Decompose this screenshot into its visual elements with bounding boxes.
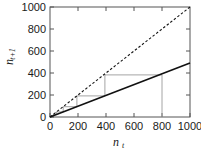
y-axis-title: n t+1 bbox=[2, 48, 17, 65]
x-tick-label: 200 bbox=[69, 120, 87, 132]
y-axis-ticks-right bbox=[186, 29, 190, 95]
cobweb-plot: 0 200 400 600 800 1000 0 200 400 600 800… bbox=[0, 0, 201, 149]
y-tick-label: 0 bbox=[40, 111, 46, 123]
x-tick-label: 600 bbox=[125, 120, 143, 132]
x-axis-title: n t bbox=[113, 135, 125, 149]
y-tick-label: 200 bbox=[28, 89, 46, 101]
identity-line bbox=[50, 7, 190, 117]
chart-figure: 0 200 400 600 800 1000 0 200 400 600 800… bbox=[0, 0, 201, 149]
x-tick-label: 800 bbox=[153, 120, 171, 132]
x-axis-ticks bbox=[50, 113, 190, 117]
y-axis-ticks bbox=[50, 7, 54, 117]
x-tick-labels: 0 200 400 600 800 1000 bbox=[47, 120, 201, 132]
y-axis-title-sub: t+1 bbox=[8, 48, 17, 60]
x-tick-label: 400 bbox=[97, 120, 115, 132]
x-tick-label: 1000 bbox=[178, 120, 201, 132]
y-tick-label: 400 bbox=[28, 67, 46, 79]
y-tick-label: 1000 bbox=[22, 1, 46, 13]
y-tick-label: 600 bbox=[28, 45, 46, 57]
x-axis-ticks-top bbox=[78, 7, 162, 11]
x-axis-title-base: n bbox=[113, 135, 119, 149]
y-tick-labels: 0 200 400 600 800 1000 bbox=[22, 1, 46, 123]
y-tick-label: 800 bbox=[28, 23, 46, 35]
plot-frame bbox=[50, 7, 190, 117]
x-axis-title-sub: t bbox=[122, 141, 125, 149]
recruitment-curve bbox=[50, 63, 190, 117]
x-tick-label: 0 bbox=[47, 120, 53, 132]
